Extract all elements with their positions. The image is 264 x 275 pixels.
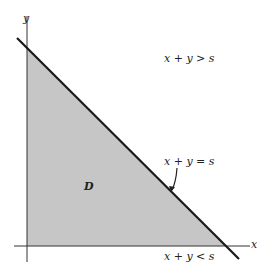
region-label: D bbox=[84, 181, 94, 192]
x-axis-label: x bbox=[251, 239, 257, 250]
diagram-graphic bbox=[0, 0, 264, 275]
annotation-below: x + y < s bbox=[164, 251, 214, 262]
annotation-on-line: x + y = s bbox=[164, 156, 214, 167]
diagram-canvas: y x D x + y > s x + y = s x + y < s bbox=[0, 0, 264, 275]
annotation-above: x + y > s bbox=[164, 53, 214, 64]
y-axis-label: y bbox=[23, 13, 29, 24]
